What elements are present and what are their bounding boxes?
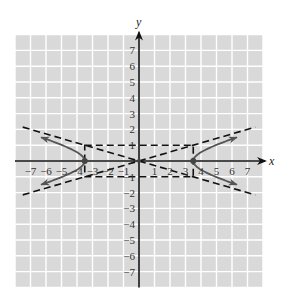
y-tick-label: 1 [130, 139, 136, 151]
y-tick-label: −2 [123, 187, 135, 199]
x-tick-label: −3 [87, 165, 99, 177]
y-axis-label: y [135, 15, 142, 29]
y-tick-label: 4 [130, 92, 136, 104]
x-tick-label: −6 [40, 165, 52, 177]
x-tick-label: 4 [198, 165, 204, 177]
y-tick-label: −4 [123, 218, 135, 230]
y-tick-label: −5 [123, 234, 135, 246]
x-tick-label: −7 [25, 165, 37, 177]
y-tick-label: −1 [123, 171, 135, 183]
x-tick-label: −4 [71, 165, 83, 177]
x-tick-label: 1 [152, 165, 158, 177]
x-tick-label: 3 [183, 165, 189, 177]
hyperbola-graph: −7−6−5−4−3−2−112345677654321−1−2−3−4−5−6… [0, 0, 290, 303]
y-tick-label: −3 [123, 202, 135, 214]
x-tick-label: 6 [229, 165, 235, 177]
y-tick-label: 6 [130, 60, 136, 72]
y-tick-label: 7 [130, 44, 136, 56]
y-tick-label: 5 [130, 76, 136, 88]
y-tick-label: 2 [130, 123, 136, 135]
y-tick-label: 3 [130, 108, 136, 120]
x-tick-label: 2 [167, 165, 173, 177]
x-tick-label: 5 [214, 165, 220, 177]
x-tick-label: −2 [102, 165, 114, 177]
y-tick-label: −7 [123, 266, 135, 278]
x-tick-label: 7 [245, 165, 251, 177]
y-tick-label: −6 [123, 250, 135, 262]
x-axis-label: x [268, 154, 275, 168]
x-tick-label: −5 [56, 165, 68, 177]
